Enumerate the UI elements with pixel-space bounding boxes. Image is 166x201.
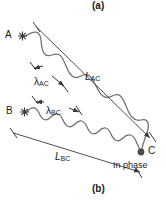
point-label-b: B <box>6 106 13 116</box>
point-label-a: A <box>5 30 12 40</box>
in-phase-annotation: In phase <box>113 161 148 170</box>
wave-diagram-figure: (a) (b) A B C LAC LBC λAC λBC In phase <box>0 0 166 201</box>
dimension-label-lac: LAC <box>85 72 100 82</box>
lambda-ac-sub: AC <box>39 80 49 87</box>
dimension-line-lbc <box>10 128 142 178</box>
wave-ac <box>24 32 148 152</box>
point-marker-b <box>20 108 29 117</box>
dimension-lac-sub: AC <box>91 75 101 82</box>
wavelength-label-lambda-ac: λAC <box>34 72 49 88</box>
dimension-lbc-sub: BC <box>61 155 71 162</box>
point-marker-a <box>18 32 27 41</box>
point-label-c: C <box>148 146 155 156</box>
lambda-bc-sub: BC <box>51 109 61 116</box>
point-marker-c <box>138 149 145 156</box>
panel-label-a: (a) <box>92 1 104 11</box>
wave-bc <box>26 108 141 152</box>
diagram-canvas <box>0 0 166 201</box>
panel-label-b: (b) <box>92 184 105 194</box>
dimension-label-lbc: LBC <box>55 152 70 162</box>
wavelength-label-lambda-bc: λBC <box>46 101 61 117</box>
